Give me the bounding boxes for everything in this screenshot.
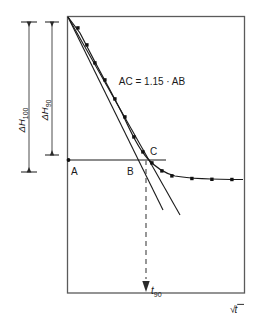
delta-h-100-subscript: 100 xyxy=(22,107,29,119)
svg-text:ΔH90: ΔH90 xyxy=(39,99,52,121)
point-c-label: C xyxy=(150,146,157,157)
delta-h-100-symbol: ΔH xyxy=(16,119,27,133)
figure-root: ΔH100 ΔH90 xyxy=(0,0,265,325)
point-b-label: B xyxy=(127,166,134,177)
delta-h-90-label: ΔH90 xyxy=(39,99,52,121)
x-axis-label: √t xyxy=(230,304,244,315)
dimension-bar-delta-h-90 xyxy=(45,22,59,156)
delta-h-90-symbol: ΔH xyxy=(39,107,50,121)
svg-text:√t: √t xyxy=(230,304,239,315)
point-a-marker xyxy=(67,158,71,162)
t90-subscript: 90 xyxy=(154,291,162,298)
delta-h-90-subscript: 90 xyxy=(45,99,52,107)
delta-h-100-label: ΔH100 xyxy=(16,107,29,133)
point-a-label: A xyxy=(71,166,78,177)
equation-label: AC = 1.15 · AB xyxy=(119,76,186,87)
svg-text:ΔH100: ΔH100 xyxy=(16,107,29,133)
consolidation-square-root-time-chart: ΔH100 ΔH90 xyxy=(0,0,265,325)
x-axis-symbol: t xyxy=(235,304,239,315)
dimension-bar-delta-h-100 xyxy=(21,22,37,173)
